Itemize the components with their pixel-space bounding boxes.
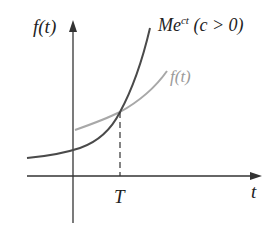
exponential-label-exponent: ct — [181, 14, 189, 26]
exponential-label-condition: (c > 0) — [193, 15, 243, 35]
curve-exponential — [27, 28, 150, 158]
y-axis-arrow-icon — [69, 20, 77, 32]
y-axis-label: f(t) — [33, 17, 56, 36]
x-axis-label: t — [251, 182, 256, 201]
exponential-label-base: Me — [158, 15, 181, 35]
exponential-curve-label: Mect (c > 0) — [158, 15, 244, 34]
curve-f — [75, 71, 167, 130]
x-axis-arrow-icon — [250, 172, 262, 180]
x-marker-label: T — [114, 187, 125, 206]
f-curve-label: f(t) — [170, 68, 191, 85]
